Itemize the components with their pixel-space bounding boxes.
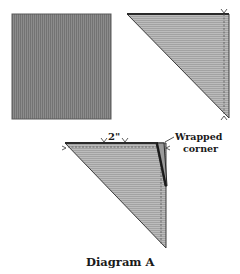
measure-mark-right bbox=[122, 138, 128, 142]
edge-mark-right bbox=[166, 146, 170, 150]
measurement-label: 2" bbox=[108, 131, 120, 142]
callout-label-line2: corner bbox=[183, 143, 219, 154]
fabric-square bbox=[12, 14, 111, 119]
wrapped-corner-triangle: 2" Wrapped corner bbox=[62, 131, 223, 248]
folded-triangle bbox=[127, 9, 229, 120]
diagram-caption: Diagram A bbox=[86, 255, 156, 269]
stitch-mark-top bbox=[221, 9, 227, 13]
measure-mark-left bbox=[101, 138, 107, 142]
callout-label-line1: Wrapped bbox=[174, 131, 223, 142]
callout-leader-line bbox=[165, 137, 174, 142]
edge-mark-left bbox=[62, 146, 66, 150]
diagram-canvas: 2" Wrapped corner Diagram A bbox=[0, 0, 240, 274]
stitch-mark-bottom bbox=[221, 116, 227, 120]
